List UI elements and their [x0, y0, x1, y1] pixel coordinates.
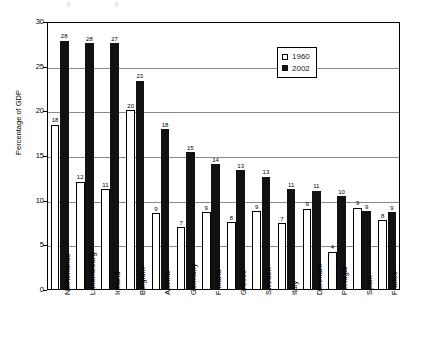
x-tick-label: Belgium — [138, 267, 147, 295]
bar-1960 — [202, 212, 211, 290]
legend-swatch-icon-2002 — [282, 65, 288, 71]
scan-artifact — [67, 2, 70, 7]
bar-1960 — [278, 223, 287, 290]
bar-value-label: 13 — [232, 163, 249, 169]
bar-value-label: 10 — [333, 189, 350, 195]
scan-artifact — [115, 2, 118, 7]
bar-1960 — [177, 227, 186, 290]
bar-1960 — [227, 222, 236, 290]
legend-label-1960: 1960 — [292, 51, 310, 63]
legend-swatch-icon-1960 — [282, 54, 288, 60]
bar-1960 — [328, 252, 337, 290]
x-tick-label: Ireland — [113, 271, 122, 295]
bar-chart: 051015202530 Percentage of GDP 182812281… — [0, 0, 421, 352]
x-tick-label: Luxembourg — [88, 252, 97, 295]
bar-2002 — [161, 129, 170, 290]
bar-1960 — [353, 208, 362, 290]
bar-value-label: 27 — [106, 36, 123, 42]
bar-1960 — [51, 125, 60, 290]
bar-value-label: 13 — [258, 169, 275, 175]
bar-value-label: 14 — [207, 157, 224, 163]
x-tick-label: Austria — [163, 271, 172, 295]
bar-value-label: 18 — [157, 122, 174, 128]
bar-value-label: 28 — [56, 33, 73, 39]
bar-2002 — [287, 189, 296, 290]
x-tick-label: Denmark — [315, 264, 324, 295]
bar-value-label: 9 — [384, 205, 401, 211]
x-tick-label: Portugal — [340, 266, 349, 295]
x-tick-label: Spain — [365, 275, 374, 295]
bar-value-label: 11 — [308, 183, 325, 189]
bars-layer: 1828122811272023918715914813913711911410… — [47, 22, 400, 290]
bar-value-label: 9 — [358, 204, 375, 210]
bar-1960 — [101, 189, 110, 290]
legend-item-1960: 1960 — [282, 51, 310, 63]
legend-item-2002: 2002 — [282, 63, 310, 75]
bar-value-label: 15 — [182, 145, 199, 151]
x-tick-label: Greece — [239, 270, 248, 295]
x-tick-label: Netherlands — [63, 253, 72, 295]
x-tick-label: Finland — [214, 270, 223, 295]
bar-1960 — [252, 211, 261, 290]
legend-label-2002: 2002 — [292, 63, 310, 75]
bar-value-label: 28 — [81, 36, 98, 42]
x-tick-label: Italy — [290, 281, 299, 295]
x-tick-label: France — [390, 271, 399, 295]
bar-1960 — [303, 209, 312, 290]
y-tick-mark — [43, 290, 47, 291]
bar-1960 — [126, 110, 135, 290]
legend: 1960 2002 — [277, 47, 317, 78]
x-axis-labels: NetherlandsLuxembourgIrelandBelgiumAustr… — [47, 292, 400, 352]
bar-2002 — [110, 43, 119, 290]
x-tick-label: Sweden — [264, 267, 273, 295]
y-axis-title: Percentage of GDP — [14, 53, 23, 193]
x-tick-label: Germany — [189, 263, 198, 295]
bar-value-label: 23 — [132, 73, 149, 79]
bar-2002 — [136, 81, 145, 290]
bar-1960 — [378, 220, 387, 290]
bar-1960 — [76, 182, 85, 290]
bar-1960 — [152, 213, 161, 290]
bar-value-label: 11 — [283, 182, 300, 188]
